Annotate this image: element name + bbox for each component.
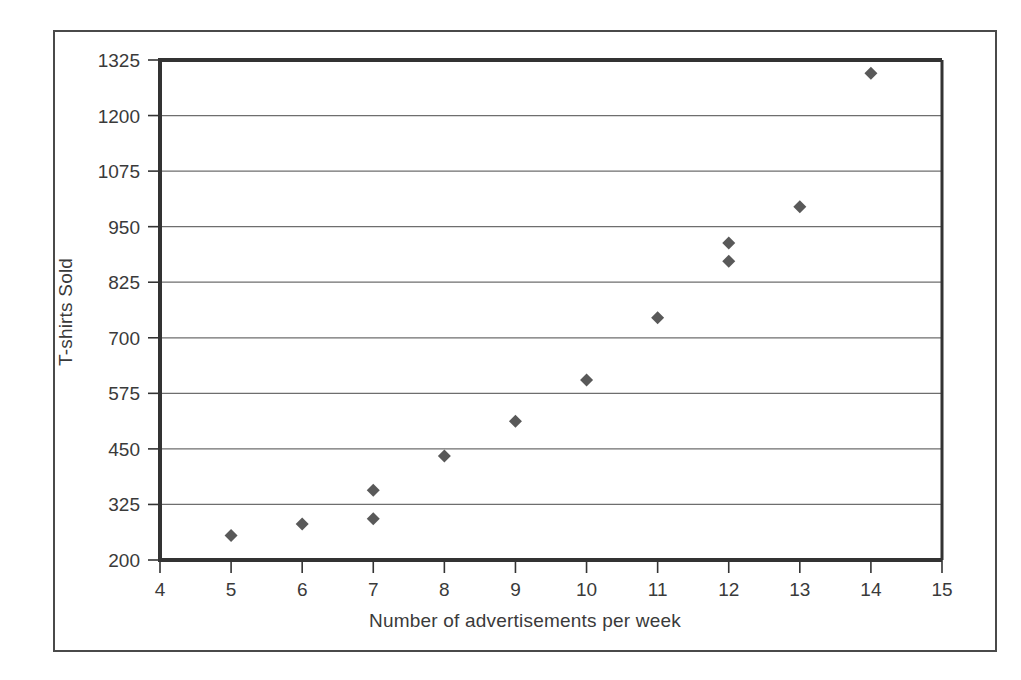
- y-tick-label-950: 950: [108, 217, 140, 238]
- data-point: [651, 311, 664, 324]
- x-tick-label-6: 6: [297, 579, 308, 600]
- x-tick-label-4: 4: [155, 579, 166, 600]
- x-axis-title: Number of advertisements per week: [55, 610, 995, 632]
- y-tick-label-700: 700: [108, 328, 140, 349]
- data-point: [509, 415, 522, 428]
- data-points: [225, 67, 878, 542]
- x-tick-label-7: 7: [368, 579, 379, 600]
- y-tick-label-1075: 1075: [98, 161, 140, 182]
- gridlines: [160, 116, 942, 505]
- data-point: [722, 237, 735, 250]
- y-axis-ticks: 200325450575700825950107512001325: [98, 50, 160, 571]
- chart-figure: 200325450575700825950107512001325 456789…: [53, 30, 997, 652]
- y-tick-label-825: 825: [108, 272, 140, 293]
- x-tick-label-8: 8: [439, 579, 450, 600]
- y-tick-label-450: 450: [108, 439, 140, 460]
- x-axis-ticks: 456789101112131415: [155, 560, 953, 600]
- y-tick-label-200: 200: [108, 550, 140, 571]
- data-point: [438, 450, 451, 463]
- data-point: [367, 512, 380, 525]
- x-tick-label-12: 12: [718, 579, 739, 600]
- y-tick-label-1325: 1325: [98, 50, 140, 71]
- y-axis-title: T-shirts Sold: [55, 258, 77, 366]
- data-point: [225, 529, 238, 542]
- y-tick-label-575: 575: [108, 383, 140, 404]
- y-tick-label-1200: 1200: [98, 106, 140, 127]
- x-tick-label-9: 9: [510, 579, 521, 600]
- data-point: [296, 518, 309, 531]
- data-point: [864, 67, 877, 80]
- x-tick-label-10: 10: [576, 579, 597, 600]
- x-tick-label-11: 11: [648, 579, 668, 600]
- data-point: [722, 255, 735, 268]
- x-tick-label-5: 5: [226, 579, 237, 600]
- data-point: [580, 374, 593, 387]
- y-tick-label-325: 325: [108, 494, 140, 515]
- scatter-plot: 200325450575700825950107512001325 456789…: [55, 32, 995, 650]
- data-point: [367, 484, 380, 497]
- x-tick-label-13: 13: [789, 579, 810, 600]
- x-tick-label-14: 14: [860, 579, 882, 600]
- x-tick-label-15: 15: [931, 579, 952, 600]
- y-axis-title-container: T-shirts Sold: [49, 32, 83, 592]
- data-point: [793, 200, 806, 213]
- plot-axes: [159, 58, 942, 562]
